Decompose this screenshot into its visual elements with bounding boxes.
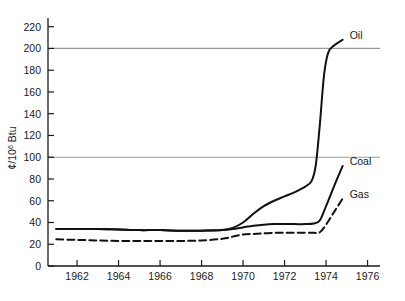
y-tick-label-140: 140 bbox=[23, 108, 41, 120]
y-tick-label-0: 0 bbox=[35, 260, 41, 272]
x-tick-label-1970: 1970 bbox=[231, 270, 255, 282]
x-tick-label-1974: 1974 bbox=[314, 270, 338, 282]
x-tick-label-1962: 1962 bbox=[65, 270, 89, 282]
line-chart: 020406080100120140160180200220 196219641… bbox=[0, 0, 405, 301]
x-tick-label-1964: 1964 bbox=[107, 270, 131, 282]
y-tick-label-180: 180 bbox=[23, 64, 41, 76]
y-tick-label-100: 100 bbox=[23, 151, 41, 163]
chart-background bbox=[0, 0, 405, 301]
x-tick-label-1972: 1972 bbox=[273, 270, 297, 282]
series-label-coal: Coal bbox=[350, 155, 372, 167]
x-tick-label-1976: 1976 bbox=[356, 270, 380, 282]
y-tick-label-80: 80 bbox=[29, 173, 41, 185]
y-tick-label-160: 160 bbox=[23, 86, 41, 98]
y-tick-label-60: 60 bbox=[29, 195, 41, 207]
series-label-gas: Gas bbox=[350, 188, 369, 200]
y-tick-label-120: 120 bbox=[23, 129, 41, 141]
y-tick-label-40: 40 bbox=[29, 216, 41, 228]
y-tick-label-20: 20 bbox=[29, 238, 41, 250]
x-tick-label-1968: 1968 bbox=[190, 270, 214, 282]
chart-figure: 020406080100120140160180200220 196219641… bbox=[0, 0, 405, 301]
x-tick-label-1966: 1966 bbox=[148, 270, 172, 282]
y-tick-label-200: 200 bbox=[23, 42, 41, 54]
series-label-oil: Oil bbox=[350, 29, 363, 41]
y-tick-label-220: 220 bbox=[23, 21, 41, 33]
